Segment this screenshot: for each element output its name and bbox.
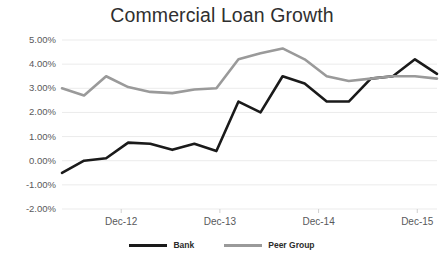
y-axis-tick-label: 4.00% [4, 59, 56, 69]
x-axis-tick-label: Dec-15 [377, 216, 444, 227]
x-axis-tick-label: Dec-14 [279, 216, 359, 227]
y-axis-tick-label: 2.00% [4, 107, 56, 117]
legend-item-bank[interactable]: Bank [129, 240, 194, 250]
x-axis-tick-label: Dec-13 [180, 216, 260, 227]
y-axis-tick-label: 1.00% [4, 132, 56, 142]
gridlines [62, 40, 437, 209]
y-axis-tick-label: -2.00% [4, 204, 56, 214]
line-swatch-gray-icon [224, 244, 262, 247]
x-axis-ticks [121, 209, 417, 213]
y-axis-tick-label: 3.00% [4, 83, 56, 93]
x-axis-tick-label: Dec-12 [81, 216, 161, 227]
data-series-lines [62, 48, 437, 172]
y-axis-tick-label: 5.00% [4, 35, 56, 45]
chart-container: Commercial Loan Growth 5.00%4.00%3.00%2.… [0, 0, 444, 267]
y-axis-tick-label: -1.00% [4, 180, 56, 190]
line-swatch-black-icon [129, 244, 167, 247]
legend-label: Peer Group [268, 240, 314, 250]
y-axis-tick-label: 0.00% [4, 156, 56, 166]
legend-item-peer-group[interactable]: Peer Group [224, 240, 314, 250]
chart-legend: Bank Peer Group [0, 240, 444, 250]
legend-label: Bank [173, 240, 194, 250]
